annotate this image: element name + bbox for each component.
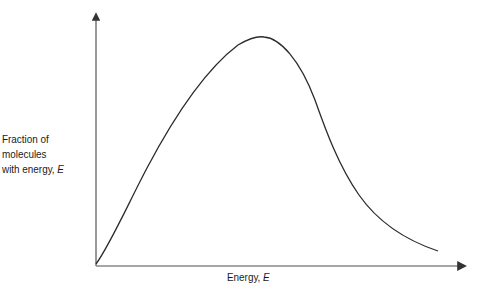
y-axis-label-line-1: Fraction of [2, 132, 64, 147]
x-axis-label: Energy, E [227, 270, 270, 285]
y-axis-label-line-3: with energy, E [2, 162, 64, 177]
chart-canvas [0, 0, 479, 293]
distribution-curve [96, 37, 438, 264]
y-axis-label: Fraction of molecules with energy, E [2, 132, 64, 177]
energy-distribution-chart: Fraction of molecules with energy, E Ene… [0, 0, 479, 293]
y-axis-label-line-2: molecules [2, 147, 64, 162]
x-axis-variable: E [263, 271, 270, 283]
x-axis-label-text: Energy, [227, 271, 263, 283]
y-axis-variable: E [57, 163, 64, 175]
